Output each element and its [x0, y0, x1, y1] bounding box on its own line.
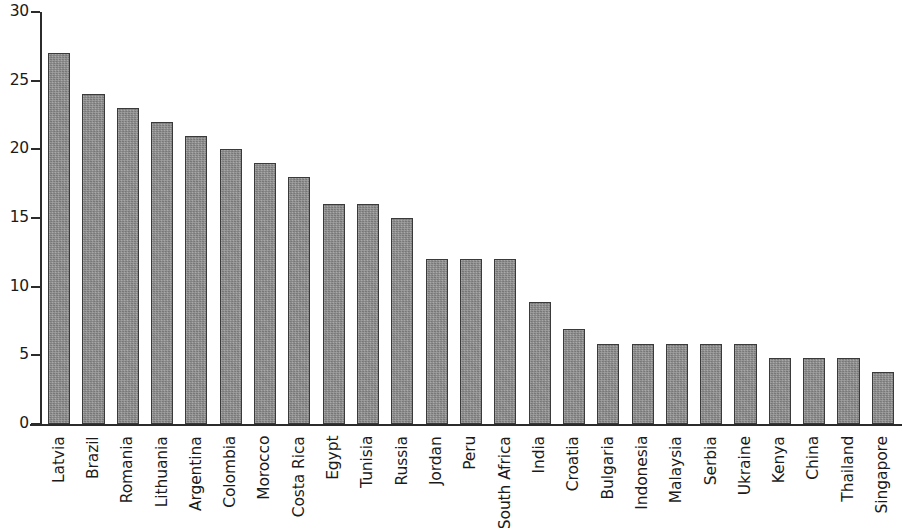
bar — [769, 358, 791, 424]
x-axis-category-label: Serbia — [694, 428, 728, 526]
x-axis-category-label-text: Romania — [120, 436, 136, 503]
bar — [117, 108, 139, 424]
x-axis-category-label: Singapore — [866, 428, 900, 526]
bar — [185, 136, 207, 424]
x-axis-category-label-text: Brazil — [86, 436, 102, 479]
y-axis-tick-mark — [31, 354, 40, 356]
x-axis-category-label-text: Peru — [463, 436, 479, 470]
bar — [391, 218, 413, 424]
y-axis-tick-label: 0 — [0, 416, 29, 432]
bar — [734, 344, 756, 424]
bar — [220, 149, 242, 424]
y-axis-tick-labels: 051015202530 — [0, 0, 29, 528]
x-axis-category-label-text: Russia — [395, 436, 411, 485]
bar — [426, 259, 448, 424]
bar — [460, 259, 482, 424]
bar — [529, 302, 551, 424]
x-axis-category-label: Indonesia — [625, 428, 659, 526]
bar — [837, 358, 859, 424]
x-axis-category-label-text: Serbia — [703, 436, 719, 485]
y-axis-tick-label: 10 — [0, 279, 29, 295]
x-axis-category-label: Brazil — [76, 428, 110, 526]
x-axis-category-label-text: Tunisia — [360, 436, 376, 488]
bar — [666, 344, 688, 424]
x-axis-category-label: South Africa — [488, 428, 522, 526]
x-axis-category-label-text: China — [806, 436, 822, 480]
x-axis-category-label: Bulgaria — [591, 428, 625, 526]
y-axis-tick-mark — [31, 148, 40, 150]
bar — [494, 259, 516, 424]
y-axis-tick-label: 25 — [0, 73, 29, 89]
bar — [803, 358, 825, 424]
x-axis-category-label: Croatia — [557, 428, 591, 526]
x-axis-category-label: Morocco — [248, 428, 282, 526]
y-axis-tick-mark — [31, 11, 40, 13]
x-axis-category-label: China — [797, 428, 831, 526]
y-axis-tick-label: 20 — [0, 141, 29, 157]
x-axis-category-label: Peru — [454, 428, 488, 526]
bar-chart: 051015202530 LatviaBrazilRomaniaLithuani… — [0, 0, 902, 528]
x-axis-category-label-text: Kenya — [772, 436, 788, 483]
x-axis-category-label: India — [522, 428, 556, 526]
bar — [597, 344, 619, 424]
x-axis-category-label: Kenya — [763, 428, 797, 526]
y-axis-tick-mark — [31, 286, 40, 288]
y-axis-tick-label: 15 — [0, 210, 29, 226]
y-axis-tick-mark — [31, 80, 40, 82]
x-axis-category-label: Russia — [385, 428, 419, 526]
x-axis-category-label-text: Singapore — [875, 436, 891, 513]
bar — [357, 204, 379, 424]
x-axis-line — [30, 424, 902, 426]
x-axis-category-label-text: Colombia — [223, 436, 239, 508]
y-axis-tick-label: 30 — [0, 4, 29, 20]
x-axis-category-label-text: Jordan — [429, 436, 445, 485]
x-axis-category-label-text: Lithuania — [154, 436, 170, 507]
x-axis-category-label-text: Ukraine — [738, 436, 754, 495]
bar — [254, 163, 276, 424]
x-axis-category-label-text: Bulgaria — [601, 436, 617, 499]
x-axis-category-label-text: South Africa — [498, 436, 514, 528]
bar — [632, 344, 654, 424]
bar — [323, 204, 345, 424]
x-axis-category-label-text: Malaysia — [669, 436, 685, 503]
x-axis-category-label: Colombia — [214, 428, 248, 526]
x-axis-category-label: Argentina — [179, 428, 213, 526]
x-axis-category-label: Tunisia — [351, 428, 385, 526]
x-axis-category-label-text: Indonesia — [635, 436, 651, 510]
x-axis-category-label-text: Croatia — [566, 436, 582, 491]
x-axis-category-label-text: India — [532, 436, 548, 474]
x-axis-category-label: Lithuania — [145, 428, 179, 526]
bar — [288, 177, 310, 424]
plot-area — [42, 12, 900, 424]
bar — [700, 344, 722, 424]
x-axis-category-label: Ukraine — [728, 428, 762, 526]
x-axis-category-label-text: Morocco — [257, 436, 273, 500]
x-axis-category-label-text: Thailand — [841, 436, 857, 502]
bar — [82, 94, 104, 424]
x-axis-category-label-text: Costa Rica — [292, 436, 308, 517]
x-axis-category-label-text: Egypt — [326, 436, 342, 480]
x-axis-category-label: Romania — [111, 428, 145, 526]
bar — [872, 372, 894, 424]
x-axis-category-label: Malaysia — [660, 428, 694, 526]
x-axis-category-label: Latvia — [42, 428, 76, 526]
x-axis-category-label-text: Latvia — [51, 436, 67, 483]
x-axis-category-label: Jordan — [420, 428, 454, 526]
x-axis-category-labels: LatviaBrazilRomaniaLithuaniaArgentinaCol… — [42, 428, 900, 528]
x-axis-category-label: Costa Rica — [282, 428, 316, 526]
x-axis-category-label-text: Argentina — [189, 436, 205, 511]
bar — [563, 329, 585, 424]
x-axis-category-label: Egypt — [317, 428, 351, 526]
bar — [151, 122, 173, 424]
x-axis-category-label: Thailand — [831, 428, 865, 526]
bar — [48, 53, 70, 424]
y-axis-tick-mark — [31, 217, 40, 219]
y-axis-tick-label: 5 — [0, 347, 29, 363]
